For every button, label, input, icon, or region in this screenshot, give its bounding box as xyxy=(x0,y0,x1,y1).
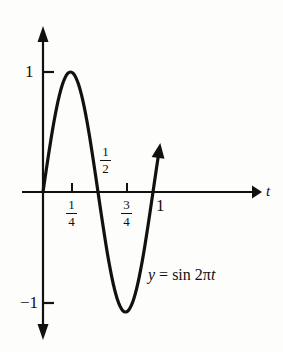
equation-equals: = xyxy=(159,266,168,283)
equation-function: sin xyxy=(172,266,191,283)
y-axis-down-arrowhead xyxy=(38,324,49,340)
fraction-denominator: 4 xyxy=(122,215,131,229)
x-axis-label: t xyxy=(266,184,270,199)
equation-coefficient: 2 xyxy=(195,266,203,283)
sine-graph-figure: 1 −1 1 4 1 2 3 4 1 t y = sin 2πt xyxy=(0,0,283,352)
plot-canvas xyxy=(0,0,283,352)
fraction-numerator: 3 xyxy=(122,198,131,212)
x-tick-label-one: 1 xyxy=(156,197,165,214)
y-axis-up-arrowhead xyxy=(38,26,49,42)
curve-arrowhead xyxy=(152,143,165,159)
x-axis-arrowhead xyxy=(252,186,262,199)
x-tick-label-three-quarters: 3 4 xyxy=(121,198,132,229)
equation-label: y = sin 2πt xyxy=(148,266,215,284)
x-annotation-one-half: 1 2 xyxy=(100,145,111,176)
equation-variable: t xyxy=(211,266,215,283)
y-tick-label-1: 1 xyxy=(25,63,34,80)
pi-symbol: π xyxy=(203,266,211,283)
x-tick-label-one-quarter: 1 4 xyxy=(66,198,77,229)
fraction-denominator: 2 xyxy=(101,162,110,176)
y-tick-label-minus-1: −1 xyxy=(20,294,38,311)
fraction-numerator: 1 xyxy=(101,145,110,159)
fraction-denominator: 4 xyxy=(67,215,76,229)
fraction-numerator: 1 xyxy=(67,198,76,212)
